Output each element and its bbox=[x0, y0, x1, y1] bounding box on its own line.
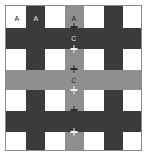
figure-frame: AAACC bbox=[5, 5, 142, 151]
axis-marker-tick bbox=[71, 68, 78, 70]
axis-marker-tick bbox=[71, 48, 78, 50]
axis-marker-tick bbox=[71, 131, 78, 133]
axis-marker-tick bbox=[71, 109, 78, 111]
axis-marker-tick bbox=[71, 26, 78, 28]
checker-grid: AAACC bbox=[6, 6, 141, 150]
axis-marker-tick bbox=[71, 89, 78, 91]
figure-root: AAACC bbox=[0, 0, 147, 156]
